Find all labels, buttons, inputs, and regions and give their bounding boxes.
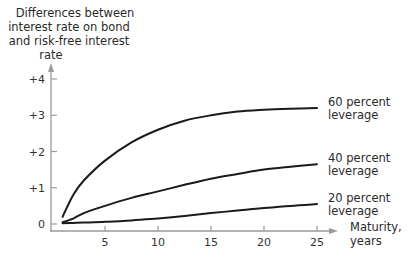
x-tick-label: 25: [310, 236, 324, 249]
y-axis-title: Differences between interest rate on bon…: [8, 6, 134, 62]
y-axis-title-line-3: and risk-free interest: [9, 34, 130, 48]
curve-60-percent-leverage: [63, 108, 317, 217]
x-axis-title: Maturity, years: [350, 220, 402, 248]
y-axis-arrow-icon: [48, 63, 54, 72]
y-tick-label: +4: [29, 73, 45, 86]
x-tick-label: 20: [257, 236, 271, 249]
series-label-60-percent-leverage: leverage: [328, 108, 378, 122]
series-label-40-percent-leverage: leverage: [328, 164, 378, 178]
y-axis-title-line-1: Differences between: [16, 6, 135, 20]
series-label-20-percent-leverage: leverage: [328, 204, 378, 218]
y-tick-label: +3: [29, 109, 45, 122]
series-label-40-percent-leverage: 40 percent: [328, 151, 391, 165]
y-tick-label: +2: [29, 146, 45, 159]
axes: [48, 63, 338, 234]
x-axis-title-line-1: Maturity,: [350, 220, 402, 234]
leverage-spread-chart: Differences between interest rate on bon…: [0, 0, 410, 258]
series-label-20-percent-leverage: 20 percent: [328, 191, 391, 205]
y-axis-title-line-4: rate: [39, 48, 62, 62]
x-tick-label: 5: [102, 236, 109, 249]
x-axis-ticks: 510152025: [102, 226, 325, 249]
x-axis-title-line-2: years: [350, 234, 382, 248]
curve-40-percent-leverage: [63, 164, 317, 222]
series-labels: 60 percentleverage40 percentleverage20 p…: [328, 95, 391, 218]
y-axis-title-line-2: interest rate on bond: [8, 20, 130, 34]
y-tick-label: +1: [29, 182, 45, 195]
x-axis-arrow-icon: [329, 228, 338, 234]
x-tick-label: 15: [204, 236, 218, 249]
series-curves: [63, 108, 317, 223]
y-tick-label: 0: [38, 218, 45, 231]
y-axis-ticks: 0+1+2+3+4: [29, 73, 57, 231]
x-tick-label: 10: [151, 236, 165, 249]
series-label-60-percent-leverage: 60 percent: [328, 95, 391, 109]
